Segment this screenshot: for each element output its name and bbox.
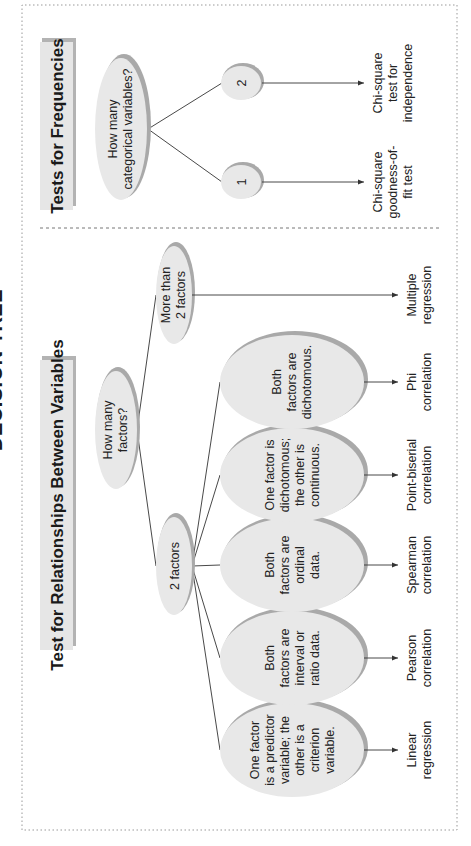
edge-two-factors-to-phi-correlation: [192, 382, 220, 566]
relationships-section: Test for Relationships Between Variables…: [40, 242, 434, 797]
linear-regression-result: Linear: [405, 733, 419, 768]
branch-2-node: 2: [221, 63, 264, 100]
factors-question-line-1: How many: [101, 400, 115, 460]
two-factors-label: 2 factors: [168, 542, 182, 590]
edge-two-factors-to-spearman-correlation: [192, 565, 220, 566]
branch-2-label: 2: [235, 79, 249, 86]
spearman-correlation-condition-line: ordinal: [293, 546, 307, 584]
pearson-correlation-condition-line: interval or: [293, 631, 307, 686]
multiple-regression-line-2: regression: [420, 266, 434, 324]
branch-1-node: 1: [221, 162, 264, 199]
point-biserial-correlation-condition-line: continuous.: [308, 443, 322, 507]
phi-correlation-condition-line: dichotomous.: [300, 345, 314, 419]
spearman-correlation-result: Spearman: [405, 536, 419, 594]
pearson-correlation-condition-node: Bothfactors areinterval orratio data.: [220, 607, 368, 705]
edge-to-branch-2: [148, 83, 222, 129]
goodness-of-fit-line-3: fit test: [401, 165, 415, 199]
more-than-two-line-1: More than: [159, 267, 173, 323]
linear-regression-result: regression: [420, 721, 434, 779]
edge-question-to-two-factors: [137, 430, 156, 566]
linear-regression-condition-line: other is a: [293, 724, 307, 775]
two-factors-node: 2 factors: [156, 513, 195, 615]
phi-correlation-condition-line: factors are: [285, 352, 299, 411]
branch-1-label: 1: [235, 178, 249, 185]
edge-two-factors-to-linear-regression: [192, 566, 220, 750]
linear-regression-condition-line: One factor: [248, 721, 262, 779]
frequencies-section: Tests for Frequencies How many categoric…: [40, 38, 415, 218]
phi-correlation-condition-line: Both: [270, 369, 284, 395]
spearman-correlation-result: correlation: [420, 536, 434, 594]
diagram-border: [22, 5, 457, 830]
categorical-question-line-1: How many: [106, 99, 120, 159]
more-than-two-factors-node: More than 2 factors: [156, 242, 195, 344]
phi-correlation-condition-node: Bothfactors aredichotomous.: [220, 331, 368, 429]
pearson-correlation-condition-line: Both: [263, 645, 277, 671]
factors-question-node: How many factors?: [95, 367, 140, 489]
decision-tree-diagram: DECISION TREE Test for Relationships Bet…: [0, 0, 471, 846]
linear-regression-condition-line: variable; the: [278, 716, 292, 784]
edge-two-factors-to-pearson-correlation: [192, 566, 220, 658]
linear-regression-condition-line: is a predictor: [263, 714, 277, 786]
spearman-correlation-condition-line: data.: [308, 551, 322, 579]
phi-correlation-result: Phi: [405, 373, 419, 391]
linear-regression-condition-node: One factoris a predictorvariable; theoth…: [220, 699, 368, 797]
point-biserial-correlation-result: Point-biserial: [405, 439, 419, 511]
frequencies-title: Tests for Frequencies: [48, 38, 67, 213]
multiple-regression-line-1: Multiple: [405, 273, 419, 316]
point-biserial-correlation-condition-line: One factor is: [263, 440, 277, 511]
edge-two-factors-to-point-biserial-correlation: [192, 475, 220, 566]
linear-regression-condition-line: variable.: [323, 726, 337, 773]
relationships-title: Test for Relationships Between Variables: [48, 339, 67, 670]
edge-question-to-more-than-two: [137, 295, 156, 430]
pearson-correlation-result: Pearson: [405, 635, 419, 682]
pearson-correlation-condition-line: ratio data.: [308, 630, 322, 686]
spearman-correlation-condition-node: Bothfactors areordinaldata.: [220, 514, 368, 612]
linear-regression-condition-line: criterion: [308, 728, 322, 773]
point-biserial-correlation-result: correlation: [420, 446, 434, 504]
independence-line-1: Chi-square: [371, 52, 385, 113]
edge-to-branch-1: [148, 129, 222, 182]
goodness-of-fit-line-2: goodness-of-: [386, 146, 400, 219]
spearman-correlation-condition-line: factors are: [278, 535, 292, 594]
point-biserial-correlation-condition-line: the other is: [293, 444, 307, 506]
condition-nodes: One factoris a predictorvariable; theoth…: [220, 331, 434, 797]
pearson-correlation-condition-line: factors are: [278, 628, 292, 687]
independence-line-2: test for: [386, 64, 400, 102]
categorical-question-node: How many categorical variables?: [95, 54, 151, 200]
categorical-question-line-2: categorical variables?: [121, 69, 135, 190]
factors-question-line-2: factors?: [116, 408, 130, 453]
independence-line-3: independence: [401, 44, 415, 123]
more-than-two-line-2: 2 factors: [174, 271, 188, 319]
goodness-of-fit-line-1: Chi-square: [371, 151, 385, 212]
pearson-correlation-result: correlation: [420, 629, 434, 687]
phi-correlation-result: correlation: [420, 353, 434, 411]
spearman-correlation-condition-line: Both: [263, 552, 277, 578]
point-biserial-correlation-condition-line: dichotomous;: [278, 438, 292, 512]
page-title: DECISION TREE: [0, 289, 6, 451]
point-biserial-correlation-condition-node: One factor isdichotomous;the other iscon…: [220, 424, 368, 522]
